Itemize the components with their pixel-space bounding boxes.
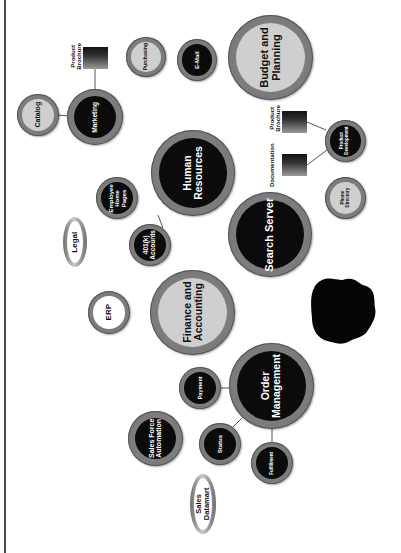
product-development-node: Product Development [325, 120, 366, 162]
sales-datamart-node: Sales Datamart [190, 474, 216, 534]
edge-order-status [232, 418, 242, 428]
401k-accounts-node: 401(k) Accounts [129, 224, 171, 266]
sales-force-automation-label: Sales Force Automation [148, 419, 163, 458]
employee-home-pages-node: Employee Home Pages [96, 177, 138, 219]
search-server-node: Search Server [228, 192, 312, 277]
black-blob-shape [308, 276, 380, 348]
phone-directory-node: Phone Directory [325, 177, 366, 219]
product-brochure-dev-document-icon [282, 111, 307, 133]
payment-label: Payment [197, 377, 203, 400]
payment-node: Payment [179, 367, 221, 409]
erp-node: ERP [88, 291, 130, 334]
email-label: E-Mail [194, 51, 200, 69]
catalog-node: Catalog [17, 94, 59, 136]
edge-dev-documentation [307, 150, 327, 165]
human-resources-node: Human Resources [151, 130, 235, 216]
product-brochure-document-icon [83, 47, 108, 69]
phone-directory-label: Phone Directory [341, 188, 350, 208]
sales-datamart-label: Sales Datamart [195, 488, 211, 521]
documentation-label: Documentation [269, 143, 275, 187]
finance-accounting-node: Finance and Accounting [150, 270, 235, 355]
human-resources-label: Human Resources [182, 146, 204, 200]
status-node: Status [199, 423, 241, 465]
product-brochure-label: Product Brochure [70, 43, 83, 70]
budget-planning-label: Budget and Planning [259, 27, 282, 88]
erp-label: ERP [105, 304, 113, 320]
order-management-node: Order Management [229, 343, 314, 429]
marketing-label: Marketing [92, 102, 99, 133]
product-brochure-dev-label: Product Brochure [269, 105, 282, 132]
catalog-label: Catalog [34, 102, 41, 128]
finance-accounting-label: Finance and Accounting [181, 282, 203, 343]
email-node: E-Mail [177, 39, 217, 81]
documentation-document-icon [282, 154, 307, 176]
legal-label: Legal [71, 232, 79, 253]
fulfillment-node: Fulfillment [251, 442, 293, 484]
legal-node: Legal [63, 217, 87, 267]
employee-home-pages-label: Employee Home Pages [108, 184, 127, 212]
sales-force-automation-node: Sales Force Automation [128, 411, 183, 466]
purchasing-label: Purchasing [143, 43, 148, 70]
budget-planning-node: Budget and Planning [228, 15, 313, 100]
order-management-label: Order Management [260, 354, 282, 418]
401k-accounts-label: 401(k) Accounts [143, 230, 157, 260]
purchasing-node: Purchasing [126, 37, 166, 77]
marketing-node: Marketing [67, 89, 123, 145]
edge-dev-brochure [307, 122, 326, 130]
search-server-label: Search Server [264, 197, 276, 271]
fulfillment-label: Fulfillment [270, 452, 275, 475]
product-development-label: Product Development [341, 127, 350, 155]
status-label: Status [217, 435, 223, 453]
